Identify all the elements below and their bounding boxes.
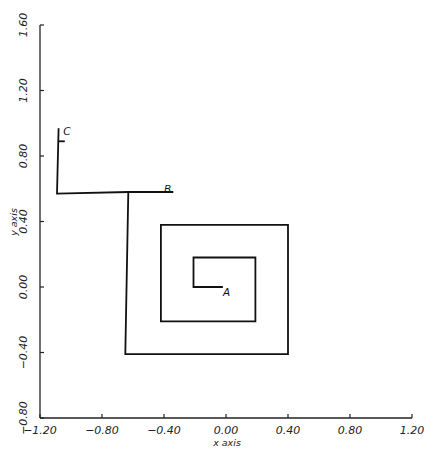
x-tick-label: −0.80 [85,424,119,437]
y-tick-label: −0.80 [17,401,30,435]
x-tick-label: 0.00 [214,424,239,437]
x-tick-label: 0.80 [338,424,363,437]
x-tick-label: 1.20 [400,424,425,437]
y-tick-label: 1.60 [17,13,30,38]
x-tick-label: 0.40 [276,424,301,437]
series-branch-to-c [57,128,128,194]
axes [40,25,412,418]
y-tick-label: 1.20 [17,78,30,103]
y-tick-label: −0.40 [17,336,30,370]
x-axis-title: x axis [212,437,241,448]
point-label-c: C [63,125,71,137]
y-tick-label: 0.80 [17,144,30,169]
point-labels: ABC [63,125,230,297]
x-tick-label: −0.40 [147,424,181,437]
point-label-a: A [222,286,230,298]
spiral-path-chart: −1.20−0.80−0.400.000.400.801.20−0.80−0.4… [0,0,439,456]
y-tick-label: 0.00 [17,275,30,300]
series-square-spiral-path [125,192,288,354]
point-label-b: B [164,183,171,195]
plot-area [57,128,288,354]
y-axis-title: y axis [8,208,19,237]
